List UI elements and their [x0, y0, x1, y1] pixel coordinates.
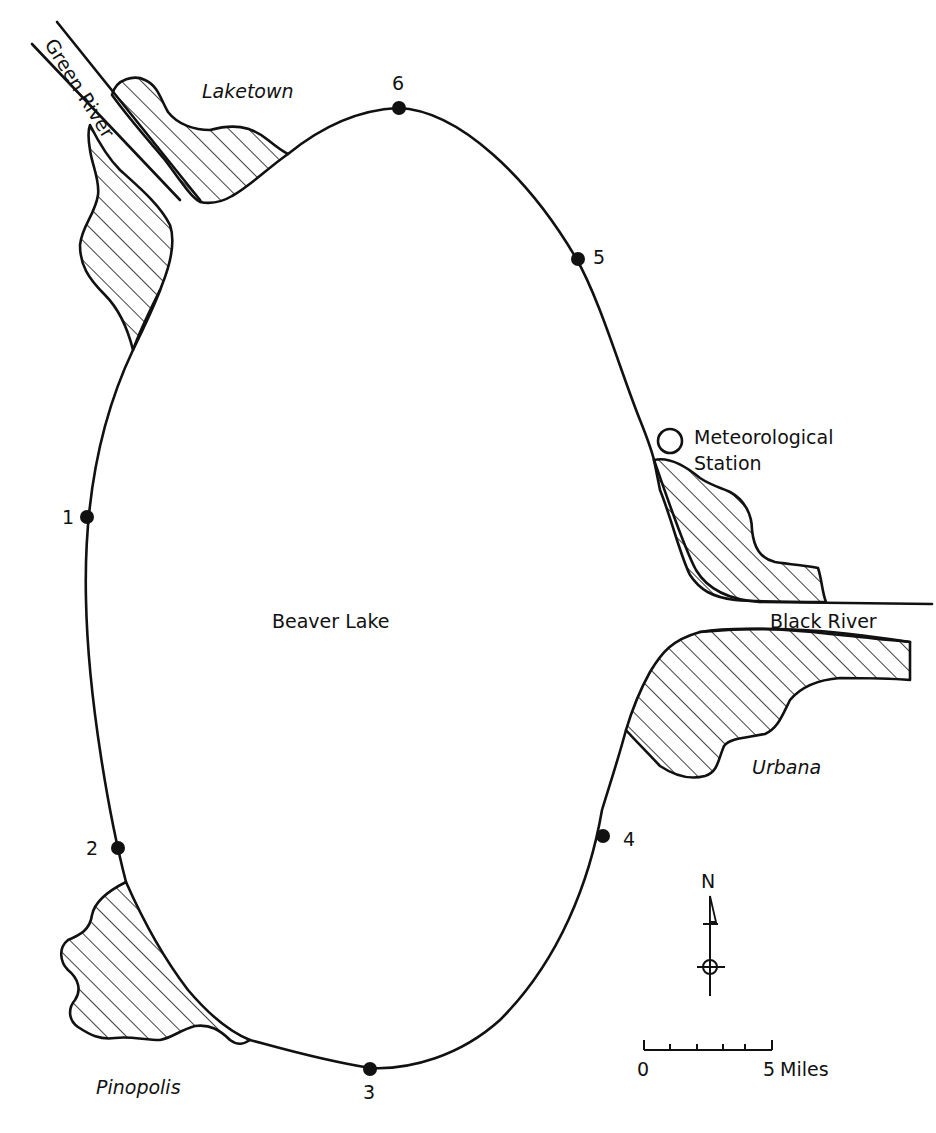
station-label-6: 6 — [392, 72, 404, 94]
station-4: 4 — [596, 828, 635, 850]
station-label-3: 3 — [363, 1081, 375, 1103]
north-arrow-icon: N — [697, 870, 725, 996]
town-area-green-river-west — [80, 125, 172, 350]
station-label-5: 5 — [593, 246, 605, 268]
beaver-lake-map: Green River Black River Beaver Lake Lake… — [0, 0, 936, 1133]
town-label-urbana: Urbana — [752, 756, 821, 778]
station-3: 3 — [363, 1062, 377, 1103]
station-5: 5 — [571, 246, 605, 268]
met-station-icon — [658, 429, 682, 453]
town-label-laketown: Laketown — [202, 80, 294, 102]
town-label-pinopolis: Pinopolis — [96, 1076, 181, 1098]
lake-shoreline — [86, 108, 760, 1068]
scale-end-label: 5 — [763, 1058, 775, 1080]
station-label-4: 4 — [623, 828, 635, 850]
scale-unit-label: Miles — [780, 1058, 829, 1080]
river-label-black-river: Black River — [770, 610, 877, 632]
station-label-2: 2 — [86, 837, 98, 859]
north-label: N — [701, 870, 715, 892]
met-station-label-line2: Station — [694, 452, 762, 474]
station-label-1: 1 — [62, 506, 74, 528]
town-area-pinopolis — [61, 882, 250, 1044]
met-station-label-line1: Meteorological — [694, 426, 833, 448]
scale-bar: 0 5 Miles — [637, 1040, 829, 1080]
station-6: 6 — [392, 72, 406, 115]
lake-label: Beaver Lake — [272, 610, 389, 632]
scale-start-label: 0 — [637, 1058, 649, 1080]
